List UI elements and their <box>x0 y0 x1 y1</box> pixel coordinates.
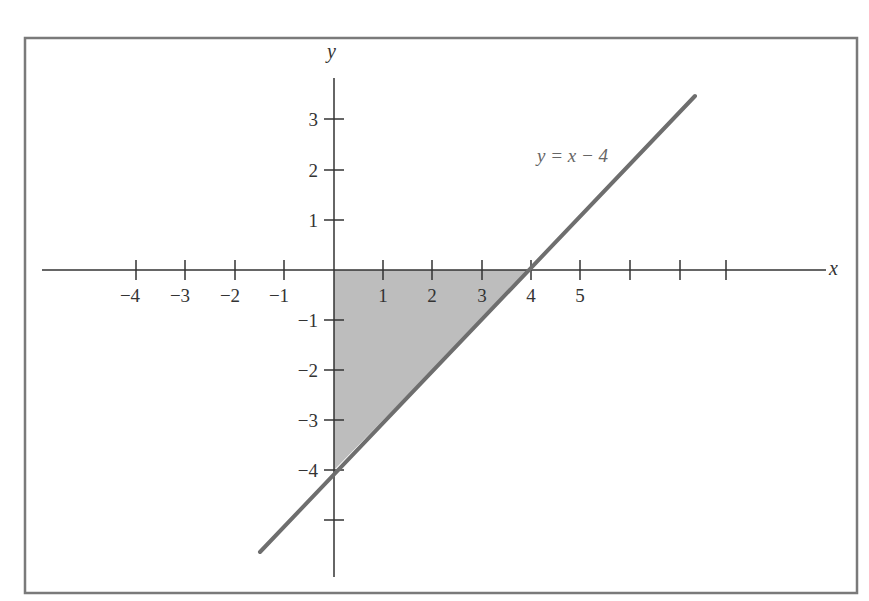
x-tick-label: 3 <box>477 285 487 306</box>
y-tick-label: 2 <box>309 160 319 181</box>
y-tick-label: −4 <box>298 460 319 481</box>
y-tick-label: −3 <box>298 410 318 431</box>
y-axis-label: y <box>325 40 336 63</box>
graph-figure: −4 −3 −2 −1 1 2 3 4 5 3 2 1 −1 −2 −3 −4 … <box>0 0 869 601</box>
x-tick-label: −1 <box>269 285 289 306</box>
x-axis-label: x <box>828 257 838 279</box>
x-tick-label: −2 <box>220 285 240 306</box>
y-tick-label: −2 <box>298 360 318 381</box>
y-tick-labels: 3 2 1 −1 −2 −3 −4 <box>298 109 319 481</box>
y-tick-label: 1 <box>309 210 319 231</box>
x-tick-label: 2 <box>427 285 437 306</box>
y-tick-label: −1 <box>298 310 318 331</box>
x-tick-label: 4 <box>526 285 536 306</box>
x-tick-label: 1 <box>378 285 388 306</box>
x-tick-label: −3 <box>170 285 190 306</box>
x-tick-label: −4 <box>120 285 141 306</box>
x-tick-label: 5 <box>575 285 585 306</box>
line-y-equals-x-minus-4 <box>260 96 695 552</box>
y-tick-label: 3 <box>309 109 319 130</box>
equation-label: y = x − 4 <box>535 145 609 166</box>
